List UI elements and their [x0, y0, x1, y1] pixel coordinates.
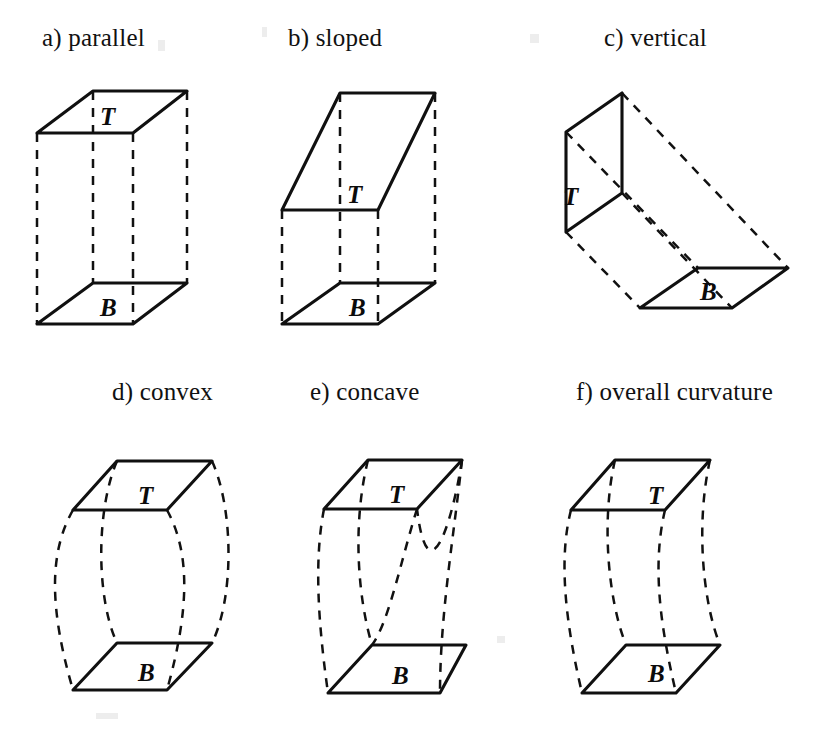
panel-d-convex: d) convex T B [0, 360, 280, 735]
panel-c-art [550, 0, 826, 360]
edge-bulge-back-right [212, 461, 229, 643]
face-top-outline [571, 460, 710, 510]
panel-c-vertical: c) vertical T B [550, 0, 826, 360]
panel-c-top-face-label: T [563, 184, 578, 209]
edge-long-lower-left [566, 232, 640, 308]
panel-a-art [0, 0, 275, 360]
edge-long-top-right [622, 93, 788, 268]
edge-bulge-back-left [101, 461, 117, 643]
panel-f-art [560, 360, 826, 735]
panel-f-top-face-label: T [648, 483, 663, 508]
edge-bulge-front-right [167, 510, 184, 690]
panel-d-top-face-label: T [138, 483, 153, 508]
edge-waist-front-left [318, 509, 328, 693]
panel-e-top-face-label: T [389, 482, 404, 507]
panel-a-parallel: a) parallel T B [0, 0, 275, 360]
panel-b-bottom-face-label: B [349, 295, 366, 320]
panel-f-overall-curvature: f) overall curvature T B [560, 360, 826, 735]
panel-d-bottom-face-label: B [138, 660, 155, 685]
panel-e-bottom-face-label: B [392, 663, 409, 688]
edge-scurve-front-left [565, 510, 582, 693]
panel-f-bottom-face-label: B [648, 661, 665, 686]
edge-bulge-front-left [55, 510, 73, 690]
edge-waist-front-right [372, 509, 417, 645]
panel-a-bottom-face-label: B [100, 295, 117, 320]
edge-waist-back-right [417, 460, 462, 550]
panel-b-art [275, 0, 550, 360]
edge-long-upper-left [566, 132, 698, 268]
panel-e-concave: e) concave T B [280, 360, 560, 735]
edge-waist-back-left [358, 460, 372, 645]
panel-a-top-face-label: T [100, 104, 115, 129]
figure-canvas: a) parallel T B b) sloped [0, 0, 826, 735]
panel-b-top-face-label: T [347, 182, 362, 207]
panel-c-bottom-face-label: B [700, 279, 717, 304]
panel-e-art [280, 360, 560, 735]
panel-b-sloped: b) sloped T B [275, 0, 550, 360]
edge-scurve-back-left [608, 460, 626, 645]
edge-scurve-back-right [702, 460, 720, 645]
